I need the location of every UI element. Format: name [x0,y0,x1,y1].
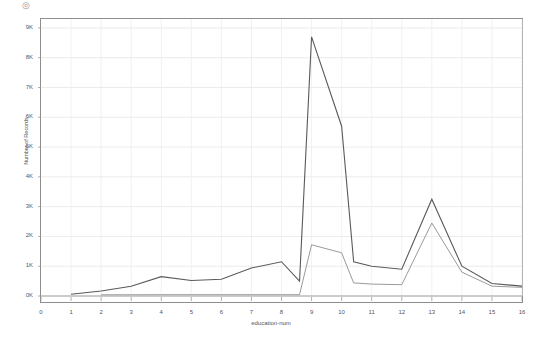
x-tick-label: 6 [213,309,229,315]
y-tick-label: 1K [17,262,33,268]
x-tick-label: 9 [304,309,320,315]
x-tick-label: 3 [123,309,139,315]
chart-container: ◎ Number of Records education-num 0K1K2K… [0,0,542,344]
plot-area-frame [40,18,523,303]
y-tick-label: 4K [17,173,33,179]
x-tick-label: 13 [424,309,440,315]
x-tick-label: 12 [394,309,410,315]
x-axis-title: education-num [0,320,542,326]
x-tick-label: 7 [243,309,259,315]
x-tick-label: 1 [63,309,79,315]
x-tick-label: 11 [364,309,380,315]
x-tick-label: 2 [93,309,109,315]
y-tick-label: 5K [17,143,33,149]
y-tick-label: 7K [17,84,33,90]
x-tick-label: 14 [454,309,470,315]
corner-glyph-icon: ◎ [22,0,32,10]
x-tick-label: 16 [514,309,530,315]
x-tick-label: 5 [183,309,199,315]
x-tick-label: 15 [484,309,500,315]
y-tick-label: 3K [17,203,33,209]
y-tick-label: 9K [17,24,33,30]
y-tick-label: 2K [17,232,33,238]
x-tick-label: 8 [274,309,290,315]
y-tick-label: 6K [17,113,33,119]
y-tick-label: 0K [17,292,33,298]
x-tick-label: 0 [33,309,49,315]
x-tick-label: 10 [334,309,350,315]
x-tick-label: 4 [153,309,169,315]
y-tick-label: 8K [17,54,33,60]
